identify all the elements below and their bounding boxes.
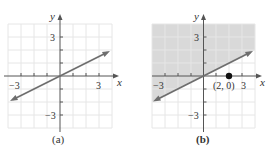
y-axis-label-b: y — [193, 10, 199, 22]
line-arrow-right-icon — [102, 51, 110, 57]
line-arrow-left-icon — [10, 95, 18, 101]
y-tick-3-a: 3 — [50, 32, 55, 43]
x-axis-label-b: x — [259, 76, 265, 88]
x-axis-label-a: x — [116, 76, 122, 88]
panel-a: y x 3 −3 −3 3 (a) — [4, 10, 122, 146]
y-tick-neg3-a: −3 — [45, 110, 56, 121]
panel-label-a: (a) — [52, 133, 65, 146]
line-arrow-right-icon — [245, 51, 253, 57]
x-tick-neg3-b: −3 — [153, 80, 164, 91]
panel-label-b: (b) — [196, 133, 210, 146]
y-tick-neg3-b: −3 — [188, 110, 199, 121]
y-axis-arrow-icon — [201, 14, 206, 20]
point-2-0 — [226, 73, 232, 79]
y-axis-label-a: y — [49, 10, 55, 22]
y-tick-3-b: 3 — [194, 32, 199, 43]
y-axis-arrow-icon — [58, 14, 63, 20]
x-tick-neg3-a: −3 — [9, 80, 20, 91]
x-tick-3-b: 3 — [241, 80, 246, 91]
x-tick-3-a: 3 — [96, 80, 101, 91]
point-label: (2, 0) — [213, 80, 235, 92]
figure-canvas: y x 3 −3 −3 3 (a) — [0, 0, 267, 149]
panel-b: y x 3 −3 −3 3 (2, 0) (b) — [152, 10, 265, 146]
